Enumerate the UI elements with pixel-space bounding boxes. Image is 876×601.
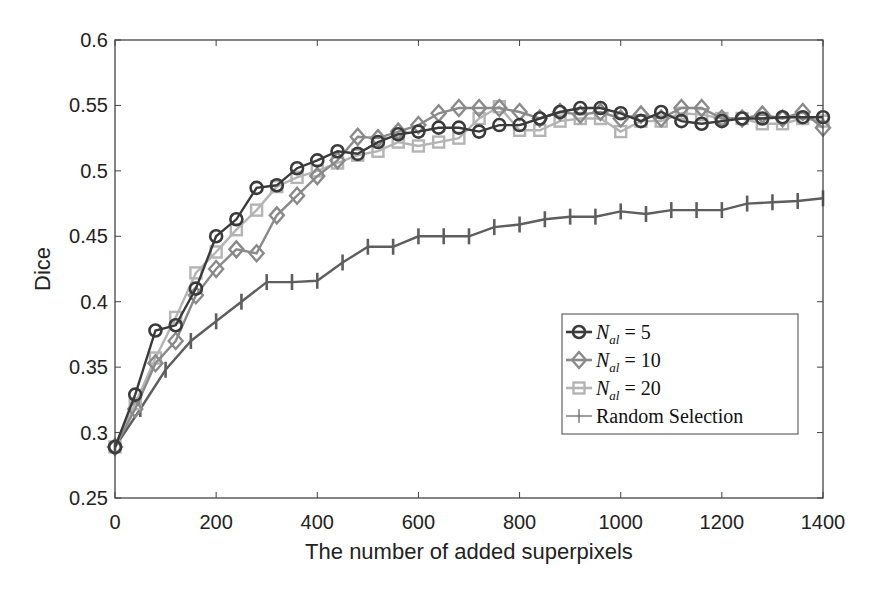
y-tick-label: 0.4 <box>80 291 108 313</box>
x-tick-label: 400 <box>301 511 334 533</box>
x-tick-label: 200 <box>199 511 232 533</box>
dice-line-chart: 0200400600800100012001400 0.250.30.350.4… <box>0 0 876 601</box>
x-axis-title: The number of added superpixels <box>305 539 633 564</box>
y-tick-label: 0.35 <box>69 356 108 378</box>
x-tick-label: 1000 <box>598 511 643 533</box>
legend-label: Random Selection <box>596 405 743 427</box>
y-tick-label: 0.3 <box>80 422 108 444</box>
x-tick-label: 0 <box>109 511 120 533</box>
x-tick-label: 1200 <box>700 511 745 533</box>
x-tick-label: 600 <box>402 511 435 533</box>
chart-background <box>0 0 876 601</box>
y-tick-label: 0.55 <box>69 94 108 116</box>
x-tick-label: 1400 <box>801 511 846 533</box>
y-tick-label: 0.25 <box>69 487 108 509</box>
y-axis-title: Dice <box>30 247 55 291</box>
y-tick-label: 0.5 <box>80 160 108 182</box>
legend: Nal = 5Nal = 10Nal = 20Random Selection <box>562 314 798 434</box>
y-tick-label: 0.6 <box>80 29 108 51</box>
y-tick-label: 0.45 <box>69 225 108 247</box>
x-tick-label: 800 <box>503 511 536 533</box>
